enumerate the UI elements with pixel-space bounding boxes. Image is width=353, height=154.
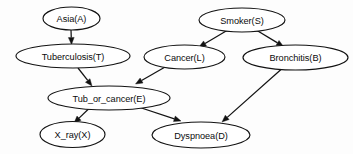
edge-e-d [140,108,181,122]
node-b[interactable]: Bronchitis(B) [243,45,348,70]
edge-s-b [257,31,284,47]
node-t[interactable]: Tuberculosis(T) [16,44,130,68]
node-label: X_ray(X) [55,130,91,140]
node-e[interactable]: Tub_or_cancer(E) [48,86,170,110]
edge-arrowhead [136,78,144,84]
edge-line [257,31,278,43]
edge-t-e [78,68,92,86]
node-x[interactable]: X_ray(X) [40,122,105,148]
node-l[interactable]: Cancer(L) [144,45,225,69]
node-label: Smoker(S) [220,16,263,26]
node-label: Cancer(L) [164,53,204,63]
edge-s-l [199,31,227,48]
node-label: Tub_or_cancer(E) [73,94,146,104]
nodes-layer: Asia(A)Tuberculosis(T)Smoker(S)Cancer(L)… [16,7,348,148]
node-d[interactable]: Dyspnoea(D) [152,122,250,148]
edge-line [142,67,166,81]
edge-l-e [136,67,167,85]
graph-canvas: Asia(A)Tuberculosis(T)Smoker(S)Cancer(L)… [0,0,353,154]
edge-line [227,70,281,118]
node-label: Tuberculosis(T) [42,52,105,62]
edge-line [78,68,88,80]
edge-line [79,109,88,118]
edge-arrowhead [173,116,181,122]
bayesian-network-diagram: Asia(A)Tuberculosis(T)Smoker(S)Cancer(L)… [0,0,353,154]
node-label: Asia(A) [57,14,87,24]
node-label: Dyspnoea(D) [174,131,228,141]
edge-e-x [74,109,89,123]
edge-line [140,108,174,119]
edge-a-t [68,30,74,45]
node-a[interactable]: Asia(A) [43,7,100,30]
node-s[interactable]: Smoker(S) [199,8,285,32]
edge-line [205,31,227,44]
edge-b-d [222,70,281,123]
node-label: Bronchitis(B) [270,53,322,63]
